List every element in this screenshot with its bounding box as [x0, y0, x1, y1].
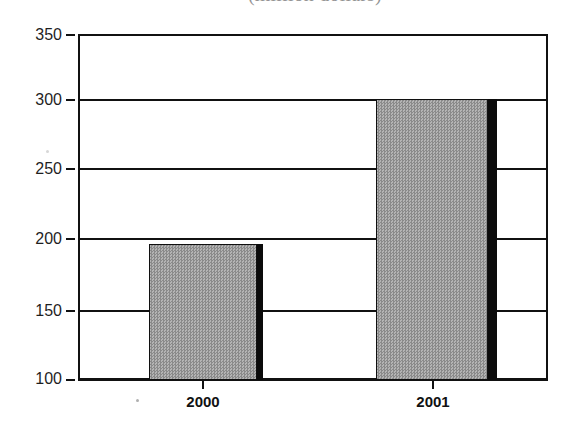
bar-2000[interactable]: [149, 244, 263, 380]
ytick-label-150: 150: [18, 303, 62, 319]
ytick-label-200: 200: [18, 231, 62, 247]
xtick-mark-2001: [432, 380, 434, 389]
xtick-label-2001: 2001: [388, 394, 478, 409]
bar-2000-body: [149, 244, 257, 380]
scan-speck: [136, 399, 139, 402]
ytick-label-350: 350: [18, 27, 62, 43]
ytick-mark-350: [66, 34, 75, 36]
scan-speck: [424, 122, 427, 125]
xtick-label-2000: 2000: [158, 394, 248, 409]
ytick-label-250: 250: [18, 161, 62, 177]
ytick-mark-100: [66, 379, 75, 381]
chart-title: (million dollars): [248, 0, 548, 7]
bar-2001[interactable]: [376, 99, 497, 380]
ytick-mark-250: [66, 168, 75, 170]
bar-chart-figure: (million dollars) 350 300 250 200 150 10…: [0, 0, 570, 447]
gridline-350: [78, 34, 548, 36]
ytick-label-300: 300: [18, 92, 62, 108]
xtick-mark-2000: [202, 380, 204, 389]
ytick-mark-300: [66, 99, 75, 101]
bar-2001-body: [376, 99, 488, 380]
ytick-mark-150: [66, 310, 75, 312]
ytick-label-100: 100: [18, 371, 62, 387]
scan-speck: [46, 150, 49, 153]
ytick-mark-200: [66, 238, 75, 240]
